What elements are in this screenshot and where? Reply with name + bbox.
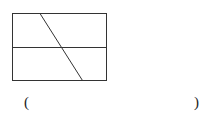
rectangle-figure: [0, 0, 209, 113]
right-parenthesis: ): [194, 94, 199, 110]
left-parenthesis: (: [24, 94, 29, 110]
